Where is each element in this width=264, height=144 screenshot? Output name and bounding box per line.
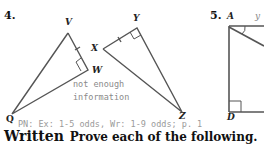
vertex-label-v: V — [65, 18, 72, 27]
vertex-label-w: W — [92, 66, 102, 75]
vertex-label-a: A — [227, 12, 234, 21]
vertex-label-y: Y — [133, 14, 139, 23]
vertex-label-x: X — [91, 44, 98, 53]
problem-5-number: 5. — [210, 10, 221, 21]
textbook-page: 4. V W Q X Y Z not enough information 5.… — [0, 0, 264, 144]
section-instruction: Prove each of the following. — [70, 130, 258, 144]
section-heading: WrittenProve each of the following. — [4, 129, 257, 143]
section-title: Written — [4, 128, 64, 144]
vertex-label-q: Q — [6, 115, 14, 124]
answer-note-line1: not enough — [73, 80, 124, 89]
figure-5 — [229, 26, 264, 112]
problem-4-number: 4. — [4, 10, 15, 21]
vertex-label-d: D — [227, 113, 235, 122]
answer-note-line2: information — [73, 93, 129, 102]
partial-label-y: y — [255, 12, 260, 21]
